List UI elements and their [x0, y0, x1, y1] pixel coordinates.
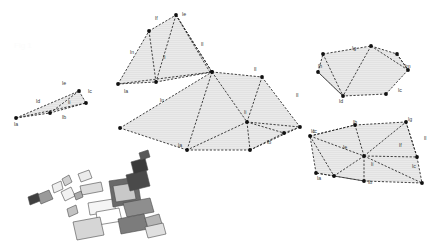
vertex-point[interactable]: [147, 29, 151, 33]
vertex-point[interactable]: [332, 174, 336, 178]
edge-label: lc: [398, 87, 402, 93]
vertex-point[interactable]: [77, 89, 81, 93]
vertex-point[interactable]: [260, 75, 264, 79]
edge-label: le: [343, 144, 347, 150]
vertex-point[interactable]: [248, 148, 252, 152]
edge-label: lb: [62, 114, 66, 120]
vertex-point[interactable]: [362, 154, 366, 158]
edge-label: lm: [405, 63, 410, 69]
edge-label: ld: [36, 98, 40, 104]
vertex-point[interactable]: [395, 52, 399, 56]
edge-label: lc: [412, 163, 416, 169]
edge-label: lc: [88, 88, 92, 94]
edge-label: li: [371, 161, 373, 167]
vertex-point[interactable]: [210, 70, 214, 74]
edge-label: lg: [408, 116, 412, 122]
edge-label: lc: [311, 128, 315, 134]
polygon-mesh-figure: Fig 1 lalblcldlelilalflelnlilllblnlallli…: [0, 0, 431, 250]
vertex-point[interactable]: [282, 131, 286, 135]
edge-label: la: [178, 142, 182, 148]
edge-label: lb: [267, 139, 271, 145]
vertex-point[interactable]: [116, 82, 120, 86]
vertex-point[interactable]: [415, 155, 419, 159]
vertex-point[interactable]: [298, 125, 302, 129]
vertex-point[interactable]: [84, 101, 88, 105]
vertex-point[interactable]: [321, 52, 325, 56]
edge-label: li: [163, 54, 165, 60]
vertex-point[interactable]: [14, 116, 18, 120]
edge-label: ld: [339, 98, 343, 104]
edge-label: lh: [318, 63, 322, 69]
edge-label: lg: [352, 45, 356, 51]
vertex-point[interactable]: [362, 179, 366, 183]
vertex-point[interactable]: [245, 120, 249, 124]
vertex-point[interactable]: [185, 148, 189, 152]
edge-label: la: [14, 121, 18, 127]
edge-label: la: [317, 175, 321, 181]
vertex-point[interactable]: [48, 111, 52, 115]
vertex-point[interactable]: [174, 13, 178, 17]
watermark-text: Fig 1: [14, 41, 32, 50]
edge-label: ln: [130, 49, 134, 55]
vertex-point[interactable]: [384, 92, 388, 96]
edge-label: ln: [160, 97, 164, 103]
vertex-point[interactable]: [118, 126, 122, 130]
edge-label: le: [62, 80, 66, 86]
edge-label: lb: [368, 179, 372, 185]
vertex-point[interactable]: [316, 70, 320, 74]
vertex-point[interactable]: [308, 134, 312, 138]
vertex-point[interactable]: [154, 80, 158, 84]
edge-label: ll: [296, 92, 298, 98]
vertex-point[interactable]: [420, 181, 424, 185]
edge-label: ll: [254, 66, 256, 72]
edge-label: li: [244, 109, 246, 115]
edge-label: la: [124, 88, 128, 94]
edge-label: li: [68, 99, 70, 105]
edge-label: ll: [201, 41, 203, 47]
edge-label: ll: [424, 135, 426, 141]
vertex-point[interactable]: [369, 44, 373, 48]
edge-label: le: [182, 11, 186, 17]
edge-label: lh: [353, 119, 357, 125]
